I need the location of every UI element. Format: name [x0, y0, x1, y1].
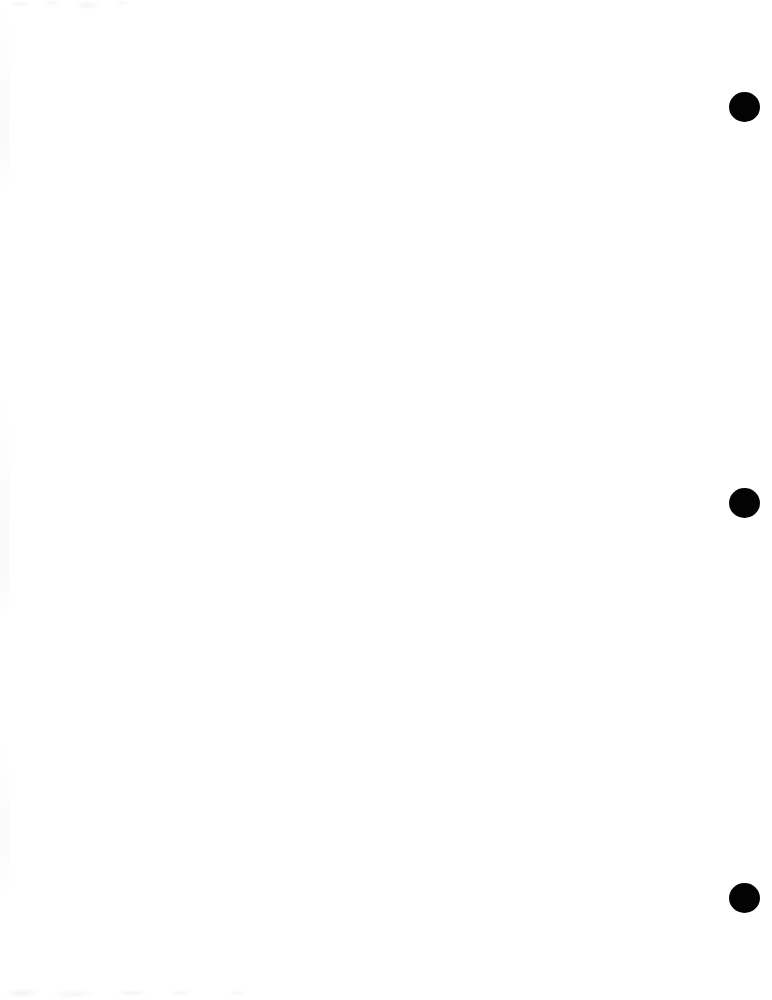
binding-dot-bottom [729, 883, 760, 913]
binding-dot-middle [729, 488, 760, 518]
binding-dot-top [729, 92, 760, 122]
bleed-through-text [212, 322, 552, 368]
scan-noise-left-edge [0, 0, 9, 1000]
scanned-page [0, 0, 772, 1000]
scan-noise-bottom-edge [0, 984, 300, 1000]
scan-noise-top-edge [8, 0, 138, 12]
